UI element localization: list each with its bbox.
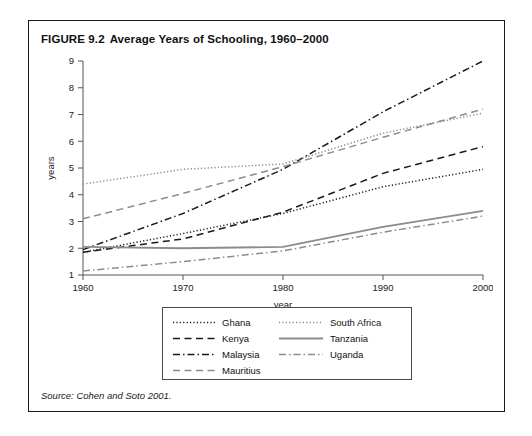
figure-frame: FIGURE 9.2Average Years of Schooling, 19… <box>28 20 505 412</box>
legend-grid: GhanaSouth AfricaKenyaTanzaniaMalaysiaUg… <box>173 314 405 378</box>
legend-item-label: Kenya <box>222 333 249 344</box>
svg-text:1980: 1980 <box>272 282 293 293</box>
svg-text:1: 1 <box>69 269 74 280</box>
legend-line-swatch <box>279 334 323 343</box>
legend-item-label: Uganda <box>330 349 363 360</box>
legend-item-kenya[interactable]: Kenya <box>173 330 279 346</box>
legend-item-label: Malaysia <box>222 349 260 360</box>
svg-text:1960: 1960 <box>72 282 93 293</box>
legend-item-uganda[interactable]: Uganda <box>279 346 405 362</box>
figure-caption: FIGURE 9.2Average Years of Schooling, 19… <box>41 33 329 45</box>
legend-line-swatch <box>173 334 215 343</box>
svg-text:9: 9 <box>69 55 74 66</box>
legend-item-tanzania[interactable]: Tanzania <box>279 330 405 346</box>
chart-legend: GhanaSouth AfricaKenyaTanzaniaMalaysiaUg… <box>162 307 412 380</box>
svg-text:8: 8 <box>69 82 74 93</box>
legend-item-ghana[interactable]: Ghana <box>173 314 279 330</box>
legend-item-label: Tanzania <box>330 333 368 344</box>
legend-item-label: Mauritius <box>222 365 261 376</box>
legend-item-mauritius[interactable]: Mauritius <box>173 362 279 378</box>
svg-text:6: 6 <box>69 136 74 147</box>
legend-item-malaysia[interactable]: Malaysia <box>173 346 279 362</box>
source-note: Source: Cohen and Soto 2001. <box>41 390 171 401</box>
svg-text:5: 5 <box>69 162 74 173</box>
legend-line-swatch <box>173 318 215 327</box>
figure-title-text: Average Years of Schooling, 1960–2000 <box>110 33 329 45</box>
svg-text:1990: 1990 <box>372 282 393 293</box>
legend-item-label: South Africa <box>330 317 381 328</box>
line-chart: 12345678919601970198019902000yearyears <box>41 53 493 315</box>
figure-number: FIGURE 9.2 <box>41 33 105 45</box>
svg-text:2000: 2000 <box>472 282 493 293</box>
legend-line-swatch <box>279 318 323 327</box>
svg-text:7: 7 <box>69 109 74 120</box>
legend-line-swatch <box>173 366 215 375</box>
svg-text:1970: 1970 <box>172 282 193 293</box>
svg-text:3: 3 <box>69 216 74 227</box>
svg-text:4: 4 <box>69 189 74 200</box>
svg-text:2: 2 <box>69 243 74 254</box>
svg-text:years: years <box>45 156 56 179</box>
legend-item-south-africa[interactable]: South Africa <box>279 314 405 330</box>
legend-item-label: Ghana <box>222 317 251 328</box>
legend-line-swatch <box>173 350 215 359</box>
chart-plot-area: 12345678919601970198019902000yearyears <box>41 53 493 315</box>
legend-line-swatch <box>279 350 323 359</box>
